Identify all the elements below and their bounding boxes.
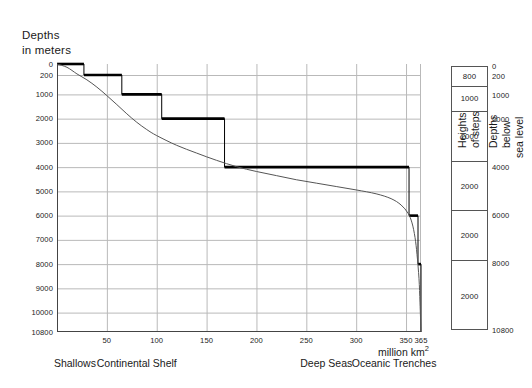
depth-scale-tick: 0: [492, 62, 496, 71]
y-tick-label: 9000: [7, 284, 53, 293]
depth-scale-tick: 200: [492, 72, 505, 81]
step-height-row: 2000: [452, 162, 487, 212]
y-tick-label: 8000: [7, 260, 53, 269]
step-height-row: 2000: [452, 261, 487, 331]
step-height-label: 2000: [461, 182, 479, 191]
step-height-row: 2000: [452, 112, 487, 162]
depth-scale-tick: 10800: [492, 326, 514, 335]
y-tick-label: 4000: [7, 163, 53, 172]
step-height-label: 1000: [461, 94, 479, 103]
step-height-label: 2000: [461, 292, 479, 301]
y-tick-label: 5000: [7, 187, 53, 196]
step-height-row: 2000: [452, 211, 487, 261]
x-axis-units: million km2: [378, 344, 429, 358]
y-tick-label: 10800: [7, 328, 53, 337]
y-tick-label: 1000: [7, 90, 53, 99]
y-tick-label: 2000: [7, 114, 53, 123]
y-tick-label: 10000: [7, 308, 53, 317]
y-tick-label: 0: [7, 60, 53, 69]
y-tick-label: 6000: [7, 211, 53, 220]
y-tick-label: 3000: [7, 138, 53, 147]
depth-scale-tick: 1000: [492, 91, 509, 100]
category-label: Deep Seas: [300, 357, 352, 369]
step-height-label: 800: [463, 72, 476, 81]
depth-scale-tick: 4000: [492, 163, 509, 172]
depth-scale-tick: 6000: [492, 211, 509, 220]
category-label: Shallows: [54, 357, 96, 369]
y-axis-title: Depths in meters: [22, 28, 71, 58]
depth-scale-tick: 2000: [492, 115, 509, 124]
plot-frame: [57, 64, 421, 332]
step-height-row: 1000: [452, 87, 487, 112]
x-tick-label: 300: [336, 336, 376, 345]
y-axis-title-line1: Depths: [22, 28, 71, 43]
heights-of-steps-panel: 80010002000200020002000: [451, 66, 488, 330]
y-tick-label: 200: [7, 71, 53, 80]
y-axis-title-line2: in meters: [22, 43, 71, 58]
step-height-label: 2000: [461, 132, 479, 141]
x-tick-label: 200: [236, 336, 276, 345]
y-tick-label: 7000: [7, 235, 53, 244]
category-label: Oceanic Trenches: [352, 357, 437, 369]
step-height-label: 2000: [461, 231, 479, 240]
x-tick-label: 50: [87, 336, 127, 345]
x-tick-label: 150: [187, 336, 227, 345]
x-tick-label: 100: [137, 336, 177, 345]
x-tick-label: 250: [286, 336, 326, 345]
step-height-row: 800: [452, 67, 487, 87]
depth-scale-tick: 8000: [492, 259, 509, 268]
category-label: Continental Shelf: [97, 357, 177, 369]
depths-below-sea-level-scale: 02001000200040006000800010800: [492, 66, 530, 330]
